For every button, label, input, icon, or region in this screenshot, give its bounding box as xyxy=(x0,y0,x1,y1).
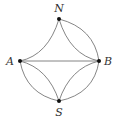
edge-n-b-inner xyxy=(59,19,99,61)
label-s: S xyxy=(55,106,63,119)
node-s xyxy=(57,99,61,103)
edge-a-s-outer xyxy=(20,61,59,101)
node-n xyxy=(57,17,61,21)
label-n: N xyxy=(53,2,64,15)
edge-s-b-inner xyxy=(59,61,99,101)
node-b xyxy=(97,59,101,63)
graph-diagram: N A B S xyxy=(0,0,114,122)
edge-s-b-outer xyxy=(59,61,99,101)
edge-a-s-inner xyxy=(20,61,59,101)
nodes xyxy=(18,17,101,103)
label-b: B xyxy=(103,55,112,68)
edges xyxy=(20,19,99,101)
edge-n-b-outer xyxy=(59,19,99,61)
node-a xyxy=(18,59,22,63)
edge-n-a xyxy=(20,19,59,61)
label-a: A xyxy=(5,55,14,68)
